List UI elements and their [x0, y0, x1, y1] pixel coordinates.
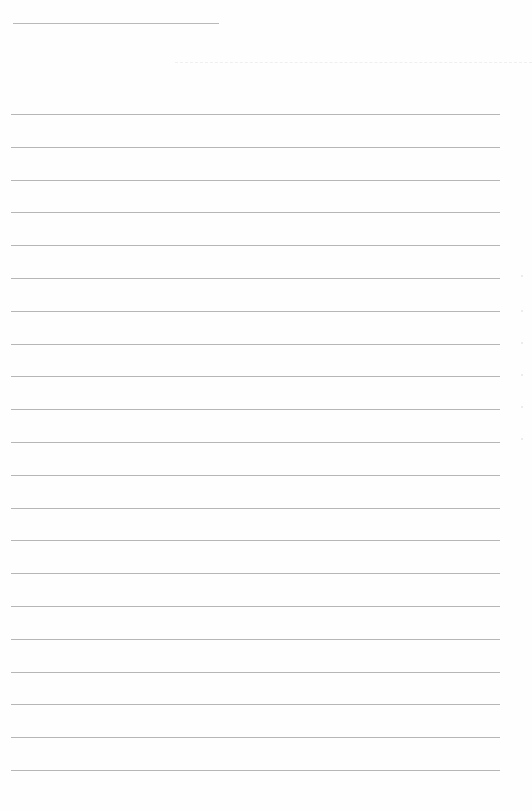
ruled-line: [11, 376, 500, 377]
ruled-line: [11, 573, 500, 574]
ruled-line: [11, 770, 500, 771]
ruled-line: [11, 245, 500, 246]
margin-mark: [521, 342, 523, 344]
ruled-line: [11, 311, 500, 312]
ruled-line: [11, 475, 500, 476]
ruled-line: [11, 180, 500, 181]
ruled-line: [11, 606, 500, 607]
margin-mark: [521, 374, 523, 376]
ruled-line: [11, 540, 500, 541]
faint-header-line: [175, 62, 532, 63]
margin-mark: [521, 310, 523, 312]
ruled-line: [11, 344, 500, 345]
ruled-line: [11, 442, 500, 443]
ruled-line: [11, 508, 500, 509]
ruled-line: [11, 639, 500, 640]
margin-mark: [521, 406, 523, 408]
ruled-line: [11, 278, 500, 279]
ruled-line: [11, 672, 500, 673]
name-line: [13, 23, 219, 24]
ruled-line: [11, 409, 500, 410]
ruled-line: [11, 114, 500, 115]
ruled-line: [11, 704, 500, 705]
ruled-line: [11, 147, 500, 148]
lined-paper-page: [0, 0, 532, 811]
ruled-line: [11, 737, 500, 738]
margin-mark: [521, 275, 523, 277]
margin-mark: [521, 438, 523, 440]
ruled-line: [11, 212, 500, 213]
